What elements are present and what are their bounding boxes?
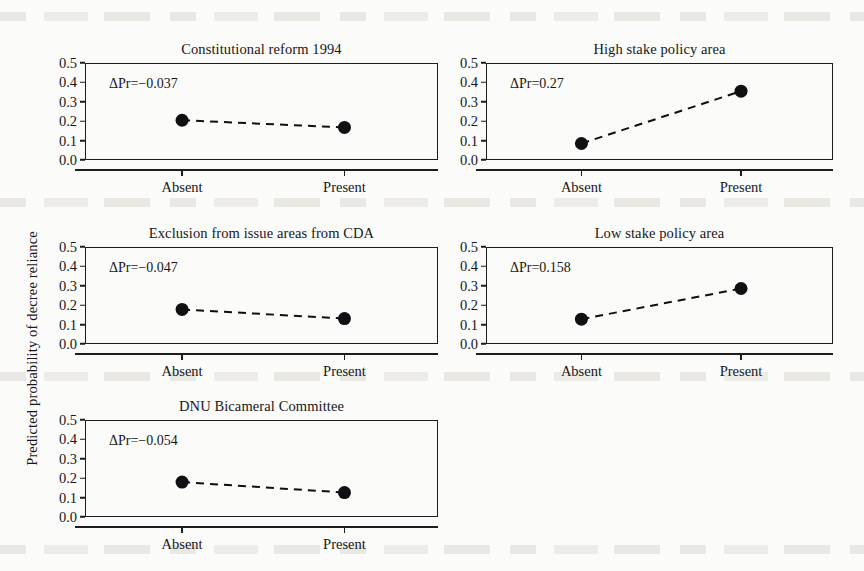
x-axis-tick-mark [581,355,583,360]
y-axis-label-text: Predicted probability of decree reliance [24,231,41,466]
x-axis-tick-label: Absent [561,363,602,380]
y-axis-tick: 0.2 [59,471,85,486]
panel-title: DNU Bicameral Committee [85,398,438,415]
chart-panel: High stake policy area0.00.10.20.30.40.5… [486,41,833,200]
data-series [85,63,438,160]
data-point-marker [735,282,748,295]
y-axis-tick: 0.4 [59,432,85,447]
x-axis-line [75,526,438,528]
y-axis-tick: 0.4 [59,259,85,274]
data-point-marker [338,121,351,134]
y-axis-tick-label: 0.4 [460,75,481,90]
y-axis-tick-label: 0.2 [460,114,481,129]
y-axis-tick: 0.0 [59,153,85,168]
y-axis-tick-label: 0.3 [59,95,80,110]
scan-bleed-texture [0,12,864,21]
y-axis-tick: 0.3 [59,279,85,294]
x-axis-tick-label: Absent [162,363,203,380]
connector-line [182,482,344,492]
x-axis-tick-label: Absent [561,179,602,196]
y-axis-tick-label: 0.4 [59,432,80,447]
y-axis-tick-label: 0.0 [59,153,80,168]
y-axis-tick-label: 0.5 [59,240,80,255]
y-axis-tick-label: 0.0 [59,510,80,525]
data-point-marker [338,312,351,325]
x-axis-tick-label: Present [323,363,366,380]
y-axis-tick-label: 0.3 [460,279,481,294]
y-axis-tick: 0.3 [59,95,85,110]
y-axis-tick: 0.4 [460,259,486,274]
y-axis-tick-label: 0.2 [59,471,80,486]
y-axis-tick-label: 0.2 [460,298,481,313]
data-point-marker [176,476,189,489]
x-axis-line [75,169,438,171]
panel-title: High stake policy area [486,41,833,58]
chart-panel: DNU Bicameral Committee0.00.10.20.30.40.… [85,398,438,557]
data-point-marker [338,486,351,499]
plot-area: 0.00.10.20.30.40.5ΔPr=−0.054AbsentPresen… [85,420,438,517]
x-axis-tick-mark [740,171,742,176]
y-axis-tick: 0.1 [59,133,85,148]
y-axis-tick: 0.3 [59,452,85,467]
x-axis-line [476,353,833,355]
data-point-marker [575,313,588,326]
connector-line [581,91,741,143]
data-series [486,63,833,160]
y-axis-tick: 0.2 [59,298,85,313]
x-axis-tick-mark [181,355,183,360]
chart-panel: Low stake policy area0.00.10.20.30.40.5Δ… [486,225,833,384]
y-axis-tick-label: 0.0 [59,337,80,352]
figure-canvas: Predicted probability of decree reliance… [0,0,864,571]
y-axis-tick-label: 0.4 [59,75,80,90]
connector-line [182,309,344,318]
y-axis-tick: 0.1 [59,317,85,332]
y-axis-label: Predicted probability of decree reliance [18,168,46,528]
y-axis-tick: 0.4 [59,75,85,90]
y-axis-tick: 0.0 [59,510,85,525]
x-axis-tick-label: Absent [162,179,203,196]
data-series [85,420,438,517]
panel-title: Constitutional reform 1994 [85,41,438,58]
y-axis-tick-label: 0.1 [460,317,481,332]
plot-area: 0.00.10.20.30.40.5ΔPr=0.158AbsentPresent [486,247,833,344]
x-axis-tick-mark [181,528,183,533]
y-axis-tick: 0.2 [460,114,486,129]
x-axis-tick-label: Present [720,179,763,196]
y-axis-tick: 0.5 [460,240,486,255]
y-axis-tick: 0.1 [59,490,85,505]
y-axis-tick-label: 0.3 [59,279,80,294]
chart-panel: Constitutional reform 19940.00.10.20.30.… [85,41,438,200]
y-axis-tick-label: 0.1 [460,133,481,148]
x-axis-tick-mark [181,171,183,176]
y-axis-tick-label: 0.0 [460,153,481,168]
y-axis-tick: 0.0 [59,337,85,352]
y-axis-tick-label: 0.2 [59,298,80,313]
y-axis-tick-label: 0.3 [460,95,481,110]
data-series [486,247,833,344]
y-axis-tick: 0.0 [460,337,486,352]
data-point-marker [176,114,189,127]
y-axis-tick-label: 0.5 [460,56,481,71]
y-axis-tick: 0.2 [59,114,85,129]
x-axis-tick-mark [740,355,742,360]
y-axis-tick: 0.3 [460,279,486,294]
chart-panel: Exclusion from issue areas from CDA0.00.… [85,225,438,384]
y-axis-tick: 0.5 [59,413,85,428]
x-axis-line [476,169,833,171]
y-axis-tick-label: 0.3 [59,452,80,467]
y-axis-tick-label: 0.5 [460,240,481,255]
x-axis-tick-label: Present [323,536,366,553]
plot-area: 0.00.10.20.30.40.5ΔPr=−0.037AbsentPresen… [85,63,438,160]
x-axis-tick-mark [344,355,346,360]
y-axis-tick-label: 0.4 [59,259,80,274]
x-axis-tick-label: Present [323,179,366,196]
panel-title: Exclusion from issue areas from CDA [85,225,438,242]
y-axis-tick: 0.5 [59,240,85,255]
y-axis-tick: 0.2 [460,298,486,313]
x-axis-tick-mark [581,171,583,176]
y-axis-tick-label: 0.1 [59,317,80,332]
y-axis-tick-label: 0.5 [59,413,80,428]
x-axis-tick-label: Absent [162,536,203,553]
y-axis-tick: 0.5 [460,56,486,71]
plot-area: 0.00.10.20.30.40.5ΔPr=−0.047AbsentPresen… [85,247,438,344]
